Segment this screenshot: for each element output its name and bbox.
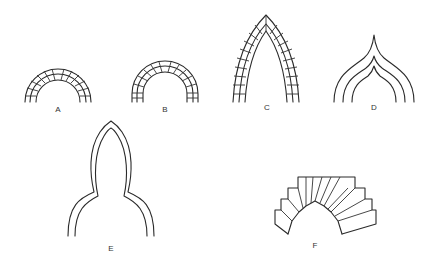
label-e: E	[108, 245, 113, 253]
arch-d	[334, 35, 414, 102]
label-f: F	[313, 242, 318, 250]
arch-a	[25, 69, 91, 102]
arch-e	[68, 121, 154, 236]
label-b: B	[162, 106, 167, 114]
arch-c	[233, 15, 299, 102]
arch-b	[132, 61, 198, 102]
label-a: A	[55, 106, 60, 114]
label-d: D	[371, 104, 377, 112]
arch-f	[275, 177, 376, 234]
label-c: C	[264, 104, 270, 112]
arch-diagram	[0, 0, 437, 259]
